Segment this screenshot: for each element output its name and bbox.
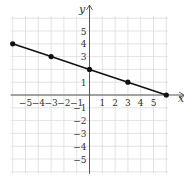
data-point <box>164 92 169 97</box>
y-axis-label: y <box>78 3 86 16</box>
y-tick-label: −2 <box>73 116 86 126</box>
data-point <box>10 41 15 46</box>
x-tick-label: −3 <box>44 98 58 108</box>
y-tick-label: −3 <box>73 129 87 139</box>
x-tick-label: 4 <box>138 98 144 108</box>
x-axis-label: x <box>178 92 185 105</box>
data-point <box>125 80 130 85</box>
data-point <box>49 54 54 59</box>
x-tick-label: −5 <box>19 98 33 108</box>
y-tick-label: 4 <box>81 39 87 49</box>
y-tick-label: −1 <box>73 103 86 113</box>
y-tick-label: 5 <box>81 27 87 37</box>
x-tick-label: 3 <box>125 98 131 108</box>
y-tick-label: −4 <box>73 142 87 152</box>
y-tick-label: 1 <box>81 78 87 88</box>
x-tick-label: 2 <box>112 98 118 108</box>
x-tick-label: −2 <box>57 98 70 108</box>
coordinate-plane: −5−4−3−2−1123455431−1−2−3−4−5 x y <box>0 0 191 176</box>
x-tick-label: −4 <box>32 98 46 108</box>
y-tick-label: −5 <box>73 155 87 165</box>
y-tick-label: 3 <box>81 52 87 62</box>
data-point <box>87 67 92 72</box>
x-tick-label: 5 <box>151 98 157 108</box>
axes <box>11 5 184 174</box>
x-tick-label: 1 <box>99 98 105 108</box>
